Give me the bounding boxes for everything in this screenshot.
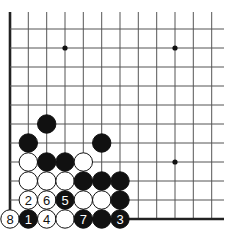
move-number-label: 6 bbox=[43, 193, 50, 208]
star-point-icon bbox=[172, 45, 177, 50]
black-stone bbox=[38, 153, 56, 171]
white-stone-icon bbox=[74, 153, 92, 171]
white-stone: 4 bbox=[38, 210, 56, 228]
move-number-label: 7 bbox=[80, 212, 87, 227]
white-stone: 2 bbox=[19, 191, 37, 209]
black-stone-icon bbox=[74, 172, 92, 190]
white-stone bbox=[56, 210, 74, 228]
black-stone: 1 bbox=[19, 210, 37, 228]
go-board: 26581473 bbox=[0, 0, 232, 239]
white-stone bbox=[38, 172, 56, 190]
white-stone bbox=[19, 172, 37, 190]
white-stone-icon bbox=[74, 191, 92, 209]
white-stone: 8 bbox=[1, 210, 19, 228]
black-stone bbox=[93, 134, 111, 152]
white-stone-icon bbox=[56, 172, 74, 190]
move-number-label: 4 bbox=[43, 212, 50, 227]
black-stone-icon bbox=[56, 153, 74, 171]
black-stone-icon bbox=[19, 134, 37, 152]
white-stone-icon bbox=[56, 210, 74, 228]
white-stone bbox=[19, 153, 37, 171]
black-stone bbox=[38, 115, 56, 133]
black-stone-icon bbox=[93, 134, 111, 152]
black-stone bbox=[74, 172, 92, 190]
black-stone-icon bbox=[93, 172, 111, 190]
white-stone-icon bbox=[19, 172, 37, 190]
black-stone bbox=[19, 134, 37, 152]
black-stone bbox=[93, 172, 111, 190]
white-stone bbox=[74, 153, 92, 171]
black-stone: 5 bbox=[56, 191, 74, 209]
move-number-label: 8 bbox=[6, 212, 13, 227]
white-stone bbox=[93, 191, 111, 209]
move-number-label: 3 bbox=[116, 212, 123, 227]
black-stone: 7 bbox=[74, 210, 92, 228]
black-stone-icon bbox=[111, 172, 129, 190]
white-stone-icon bbox=[38, 172, 56, 190]
move-number-label: 2 bbox=[25, 193, 32, 208]
white-stone-icon bbox=[19, 153, 37, 171]
white-stone: 6 bbox=[38, 191, 56, 209]
move-number-label: 1 bbox=[25, 212, 32, 227]
white-stone bbox=[56, 172, 74, 190]
star-point-icon bbox=[172, 159, 177, 164]
black-stone bbox=[93, 210, 111, 228]
star-point-icon bbox=[62, 45, 67, 50]
white-stone-icon bbox=[93, 191, 111, 209]
black-stone-icon bbox=[111, 191, 129, 209]
black-stone: 3 bbox=[111, 210, 129, 228]
black-stone-icon bbox=[38, 115, 56, 133]
move-number-label: 5 bbox=[61, 193, 68, 208]
white-stone bbox=[74, 191, 92, 209]
black-stone bbox=[111, 191, 129, 209]
black-stone bbox=[56, 153, 74, 171]
black-stone-icon bbox=[38, 153, 56, 171]
black-stone bbox=[111, 172, 129, 190]
black-stone-icon bbox=[93, 210, 111, 228]
